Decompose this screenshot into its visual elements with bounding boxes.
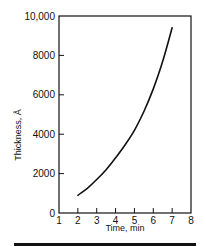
thickness-vs-time-chart: 12345678 0200040006000800010,000 Time, m… [0,0,206,246]
y-tick-label: 0 [49,208,55,219]
x-tick-label: 8 [188,215,194,226]
x-tick-label: 6 [151,215,157,226]
x-tick-label: 2 [75,215,81,226]
x-tick-label: 7 [169,215,175,226]
plot-box [59,16,191,213]
data-series [78,28,172,196]
y-tick-label: 8000 [33,50,56,61]
y-tick-label: 6000 [33,89,56,100]
y-tick-label: 4000 [33,129,56,140]
y-tick-label: 2000 [33,168,56,179]
x-axis-label: Time, min [105,223,144,233]
plot-frame [59,16,191,213]
y-axis-label: Thickness, Å [13,109,23,161]
thickness-curve [78,28,172,196]
y-tick-label: 10,000 [24,11,55,22]
y-axis-ticks: 0200040006000800010,000 [24,11,64,219]
x-tick-label: 1 [56,215,62,226]
x-tick-label: 3 [94,215,100,226]
